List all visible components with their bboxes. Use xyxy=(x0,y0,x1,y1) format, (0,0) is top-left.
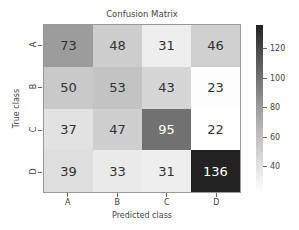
colorbar-tick-label: 120 xyxy=(270,44,285,53)
y-tick: C xyxy=(28,125,42,135)
colorbar-tick: 120 xyxy=(263,44,285,54)
tick-mark xyxy=(38,130,42,131)
colorbar-tick-label: 100 xyxy=(270,74,285,83)
y-tick-label: B xyxy=(29,82,38,92)
y-tick-label: C xyxy=(29,124,38,134)
tick-mark xyxy=(38,87,42,88)
x-tick: D xyxy=(206,193,226,207)
colorbar-tick: 60 xyxy=(263,132,280,142)
x-tick: B xyxy=(107,193,127,207)
heatmap-cell: 46 xyxy=(191,25,240,67)
tick-mark xyxy=(117,193,118,197)
x-tick: C xyxy=(157,193,177,207)
heatmap-cell: 31 xyxy=(142,150,191,192)
heatmap-cell: 33 xyxy=(93,150,142,192)
heatmap-cell: 48 xyxy=(93,25,142,67)
x-tick-label: A xyxy=(58,198,78,207)
tick-mark xyxy=(216,193,217,197)
colorbar-tick-label: 80 xyxy=(270,103,280,112)
colorbar xyxy=(256,25,263,193)
colorbar-tick: 80 xyxy=(263,103,280,113)
y-tick: D xyxy=(28,167,42,177)
heatmap-cell: 53 xyxy=(93,67,142,109)
x-tick-label: C xyxy=(157,198,177,207)
heatmap-cell: 47 xyxy=(93,109,142,151)
y-axis-label: True class xyxy=(12,79,21,139)
y-tick: B xyxy=(28,82,42,92)
x-tick-label: D xyxy=(206,198,226,207)
heatmap-cell: 136 xyxy=(191,150,240,192)
tick-mark xyxy=(67,193,68,197)
colorbar-tick-label: 40 xyxy=(270,162,280,171)
heatmap-cell: 39 xyxy=(44,150,93,192)
colorbar-tick-label: 60 xyxy=(270,133,280,142)
tick-mark xyxy=(263,166,267,167)
y-tick: A xyxy=(28,40,42,50)
heatmap-cell: 31 xyxy=(142,25,191,67)
chart-title: Confusion Matrix xyxy=(43,9,241,19)
heatmap-cell: 23 xyxy=(191,67,240,109)
colorbar-tick: 100 xyxy=(263,73,285,83)
confusion-matrix-heatmap: 734831465053432337479522393331136 xyxy=(43,24,241,193)
y-tick-label: A xyxy=(29,40,38,50)
tick-mark xyxy=(38,172,42,173)
y-tick-label: D xyxy=(29,166,38,176)
tick-mark xyxy=(263,107,267,108)
tick-mark xyxy=(166,193,167,197)
tick-mark xyxy=(38,45,42,46)
heatmap-cell: 95 xyxy=(142,109,191,151)
x-axis-label: Predicted class xyxy=(43,211,241,220)
heatmap-cell: 73 xyxy=(44,25,93,67)
x-tick-label: B xyxy=(107,198,127,207)
tick-mark xyxy=(263,137,267,138)
heatmap-cell: 43 xyxy=(142,67,191,109)
heatmap-cell: 22 xyxy=(191,109,240,151)
colorbar-tick: 40 xyxy=(263,161,280,171)
heatmap-cell: 37 xyxy=(44,109,93,151)
tick-mark xyxy=(263,78,267,79)
x-tick: A xyxy=(58,193,78,207)
heatmap-cell: 50 xyxy=(44,67,93,109)
tick-mark xyxy=(263,48,267,49)
